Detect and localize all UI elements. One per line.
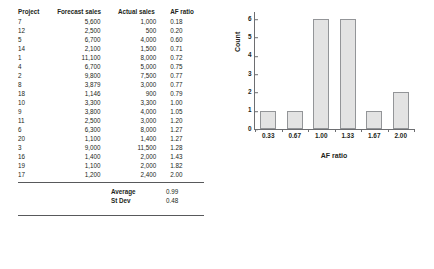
cell-af-ratio: 0.60 — [164, 36, 204, 45]
x-tick-mark — [335, 129, 336, 132]
cell-af-ratio: 1.20 — [164, 117, 204, 126]
summary-body: Average0.99St Dev0.48 — [18, 186, 204, 205]
table-row: 191,1002,0001.82 — [18, 161, 204, 170]
cell-actual: 2,000 — [108, 161, 164, 170]
cell-actual: 1,000 — [108, 18, 164, 27]
cell-af-ratio: 1.27 — [164, 134, 204, 143]
cell-af-ratio: 1.82 — [164, 161, 204, 170]
cell-actual: 1,400 — [108, 134, 164, 143]
histogram-figure: Project Forecast sales Actual sales AF r… — [0, 0, 434, 269]
summary-label: Average — [111, 186, 166, 196]
y-tick-label: 4 — [248, 53, 255, 59]
cell-forecast: 2,500 — [50, 117, 109, 126]
cell-project: 6 — [18, 126, 50, 135]
cell-af-ratio: 1.05 — [164, 108, 204, 117]
bar-series — [255, 12, 414, 129]
y-tick-label: 1 — [248, 108, 255, 114]
cell-project: 8 — [18, 81, 50, 90]
table-row: 201,1001,4001.27 — [18, 134, 204, 143]
cell-forecast: 6,700 — [50, 63, 109, 72]
table-row: 75,6001,0000.18 — [18, 18, 204, 27]
cell-actual: 2,000 — [108, 152, 164, 161]
cell-forecast: 1,200 — [50, 170, 109, 179]
table-row: 122,5005000.20 — [18, 27, 204, 36]
y-tick-label: 3 — [248, 71, 255, 77]
footer-rule — [18, 215, 204, 216]
table-row: 29,8007,5000.77 — [18, 72, 204, 81]
cell-forecast: 1,146 — [50, 90, 109, 99]
y-tick-label: 6 — [248, 16, 255, 22]
cell-actual: 8,000 — [108, 54, 164, 63]
table-row: 112,5003,0001.20 — [18, 117, 204, 126]
cell-af-ratio: 1.27 — [164, 126, 204, 135]
summary-row: St Dev0.48 — [18, 196, 204, 206]
column-header-forecast: Forecast sales — [50, 9, 109, 18]
cell-forecast: 11,100 — [50, 54, 109, 63]
x-tick-mark — [308, 129, 309, 132]
cell-forecast: 9,000 — [50, 143, 109, 152]
cell-af-ratio: 1.43 — [164, 152, 204, 161]
cell-project: 20 — [18, 134, 50, 143]
y-tick-label: 0 — [248, 126, 255, 132]
x-tick-mark — [361, 129, 362, 132]
summary-row: Average0.99 — [18, 186, 204, 196]
cell-af-ratio: 0.71 — [164, 45, 204, 54]
cell-af-ratio: 2.00 — [164, 170, 204, 179]
cell-project: 1 — [18, 54, 50, 63]
cell-actual: 1,500 — [108, 45, 164, 54]
cell-forecast: 1,400 — [50, 152, 109, 161]
cell-actual: 11,500 — [108, 143, 164, 152]
y-tick-label: 2 — [248, 89, 255, 95]
histogram-bar — [313, 19, 329, 129]
cell-forecast: 2,500 — [50, 27, 109, 36]
cell-project: 3 — [18, 143, 50, 152]
summary-table: Average0.99St Dev0.48 — [18, 186, 204, 205]
bar-slot — [255, 12, 282, 129]
cell-project: 2 — [18, 72, 50, 81]
histogram-bar — [287, 111, 303, 129]
cell-project: 16 — [18, 152, 50, 161]
cell-forecast: 1,100 — [50, 134, 109, 143]
cell-project: 17 — [18, 170, 50, 179]
table-row: 39,00011,5001.28 — [18, 143, 204, 152]
cell-actual: 500 — [108, 27, 164, 36]
column-header-actual: Actual sales — [108, 9, 164, 18]
cell-actual: 5,000 — [108, 63, 164, 72]
y-axis-title: Count — [234, 32, 241, 52]
column-header-af-ratio: AF ratio — [164, 9, 204, 18]
x-tick-label: 1.00 — [315, 129, 327, 139]
histogram-bar — [366, 111, 382, 129]
summary-value: 0.48 — [166, 196, 204, 206]
table-row: 171,2002,4002.00 — [18, 170, 204, 179]
cell-project: 19 — [18, 161, 50, 170]
bar-slot — [308, 12, 335, 129]
x-axis-title: AF ratio — [254, 152, 414, 159]
cell-actual: 7,500 — [108, 72, 164, 81]
x-tick-label: 0.33 — [262, 129, 274, 139]
table-row: 83,8793,0000.77 — [18, 81, 204, 90]
cell-actual: 8,000 — [108, 126, 164, 135]
table-row: 111,1008,0000.72 — [18, 54, 204, 63]
cell-af-ratio: 0.77 — [164, 81, 204, 90]
cell-actual: 2,400 — [108, 170, 164, 179]
cell-actual: 4,000 — [108, 108, 164, 117]
summary-value: 0.99 — [166, 186, 204, 196]
x-tick-label: 1.33 — [342, 129, 354, 139]
cell-af-ratio: 0.79 — [164, 90, 204, 99]
cell-forecast: 1,100 — [50, 161, 109, 170]
column-header-project: Project — [18, 9, 50, 18]
bar-slot — [388, 12, 415, 129]
histogram-bar — [393, 92, 409, 129]
cell-forecast: 9,800 — [50, 72, 109, 81]
cell-forecast: 3,300 — [50, 99, 109, 108]
cell-af-ratio: 1.00 — [164, 99, 204, 108]
project-sales-table: Project Forecast sales Actual sales AF r… — [18, 9, 204, 179]
table-row: 46,7005,0000.75 — [18, 63, 204, 72]
cell-af-ratio: 0.77 — [164, 72, 204, 81]
table-header: Project Forecast sales Actual sales AF r… — [18, 9, 204, 18]
table-row: 56,7004,0000.60 — [18, 36, 204, 45]
cell-project: 12 — [18, 27, 50, 36]
cell-actual: 3,000 — [108, 81, 164, 90]
bar-slot — [335, 12, 362, 129]
cell-af-ratio: 0.18 — [164, 18, 204, 27]
